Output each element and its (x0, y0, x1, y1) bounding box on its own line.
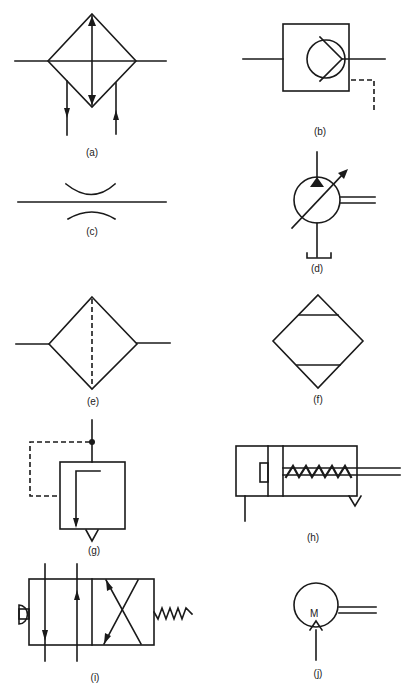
symbol-c-restrictor (18, 184, 166, 219)
label-e: (e) (87, 396, 99, 407)
symbol-e-filter (16, 297, 170, 389)
label-b: (b) (314, 126, 326, 137)
symbol-f-water-trap (273, 295, 363, 388)
symbol-b-motor-enclosure (243, 24, 385, 110)
symbol-g-relief-valve (30, 420, 125, 541)
symbol-a-heat-exchanger (15, 14, 166, 135)
label-h: (h) (307, 532, 319, 543)
hydraulic-symbols-diagram: M (0, 0, 418, 694)
symbol-j-electric-motor: M (294, 583, 376, 660)
motor-m-text: M (310, 608, 318, 619)
label-g: (g) (88, 545, 100, 556)
label-d: (d) (311, 263, 323, 274)
label-i: (i) (91, 672, 100, 683)
symbol-i-directional-valve (19, 564, 192, 661)
label-j: (j) (314, 668, 323, 679)
label-f: (f) (313, 394, 322, 405)
symbol-h-spring-cylinder (236, 446, 400, 521)
label-a: (a) (86, 147, 98, 158)
symbol-d-variable-pump (292, 152, 375, 258)
label-c: (c) (86, 226, 98, 237)
